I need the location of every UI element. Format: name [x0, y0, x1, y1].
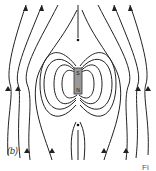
- north-pole-label: N: [76, 87, 80, 93]
- neutral-point-bottom: [77, 124, 80, 127]
- magnetic-field-diagram: S N: [0, 0, 156, 171]
- panel-label: (b): [7, 146, 18, 156]
- neutral-point-top: [77, 39, 80, 42]
- figure-caption-fragment: Fi: [142, 163, 149, 171]
